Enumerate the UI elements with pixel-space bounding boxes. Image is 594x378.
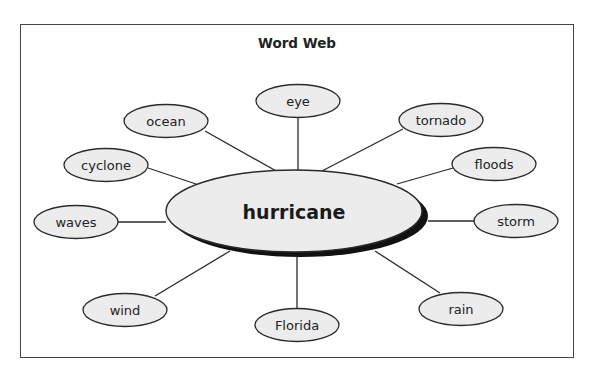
node-label-storm: storm [497, 214, 535, 229]
node-label-waves: waves [55, 215, 96, 230]
connector-tornado [320, 129, 403, 172]
connector-wind [155, 251, 230, 296]
node-label-wind: wind [110, 303, 141, 318]
node-label-cyclone: cyclone [81, 158, 131, 173]
node-label-floods: floods [474, 157, 513, 172]
connector-rain [375, 251, 440, 293]
node-label-tornado: tornado [416, 113, 467, 128]
center-label: hurricane [243, 201, 346, 223]
node-label-florida: Florida [275, 318, 319, 333]
node-label-eye: eye [286, 94, 310, 109]
connector-ocean [205, 131, 278, 172]
node-label-ocean: ocean [146, 114, 185, 129]
connector-floods [397, 168, 453, 184]
connector-cyclone [148, 168, 196, 184]
node-label-rain: rain [448, 302, 473, 317]
